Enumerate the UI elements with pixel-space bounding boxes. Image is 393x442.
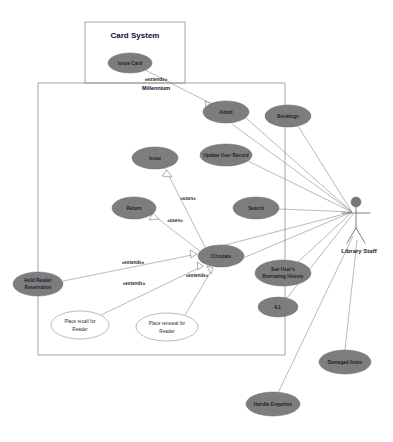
link-hold-circulate	[63, 254, 197, 281]
use-case-issue-card[interactable]: Issue Card	[108, 53, 152, 73]
stereotype-extends-renewal: «extends»	[186, 273, 209, 278]
use-case-hold-reader-reservation-shape[interactable]	[13, 272, 63, 296]
use-case-place-renewal-for-reader-line2: Reader	[159, 329, 175, 334]
use-case-search-label: Search	[248, 206, 264, 211]
use-case-see-users-borrowing-history-line1: See User's	[271, 267, 295, 272]
use-case-admit-label: Admit	[219, 110, 233, 115]
use-case-damaged-items[interactable]: Damaged Items	[319, 350, 371, 374]
arrowhead-hold	[190, 250, 197, 258]
actor-library-staff-label: Library Staff	[341, 248, 377, 254]
use-case-diagram: Card System Millennium Admit (extends) -…	[0, 0, 393, 442]
link-staff-bookings	[298, 126, 352, 212]
stereotype-uses-return: «uses»	[167, 218, 183, 223]
use-case-ill[interactable]: ILL	[258, 297, 298, 317]
boundary-card-system-title: Card System	[111, 31, 160, 40]
use-case-return[interactable]: Return	[112, 197, 156, 219]
use-case-see-users-borrowing-history-shape[interactable]	[255, 260, 311, 286]
link-staff-search	[279, 209, 352, 212]
use-case-damaged-items-label: Damaged Items	[328, 360, 363, 365]
use-case-hold-reader-reservation-line2: Reservation	[25, 285, 52, 290]
use-case-handle-enquiries-label: Handle Enquiries	[254, 402, 293, 407]
use-case-place-renewal-for-reader-line1: Place renewal for	[149, 321, 186, 326]
boundary-card-system: Card System	[85, 22, 185, 83]
stereotype-extends-recall: «extends»	[123, 281, 146, 286]
use-case-update-user-record[interactable]: Update User Record	[200, 144, 252, 166]
use-case-place-recall-for-reader[interactable]: Place recall for Reader	[51, 311, 109, 339]
use-case-place-renewal-for-reader-shape[interactable]	[136, 313, 198, 341]
arrowhead-recall	[197, 262, 203, 270]
use-case-bookings-label: Bookings	[277, 114, 299, 119]
stereotype-extends-issue-card: «extends»	[145, 77, 168, 82]
use-case-place-recall-for-reader-line1: Place recall for	[64, 319, 96, 324]
use-case-handle-enquiries[interactable]: Handle Enquiries	[246, 392, 300, 416]
actor-leg-right	[356, 228, 365, 243]
use-case-ill-label: ILL	[274, 305, 281, 310]
link-staff-damaged	[345, 240, 357, 350]
use-case-place-recall-for-reader-shape[interactable]	[51, 311, 109, 339]
actor-leg-left	[347, 228, 356, 243]
use-case-bookings[interactable]: Bookings	[265, 105, 311, 127]
use-case-circulate-label: Circulate	[211, 254, 232, 259]
use-case-update-user-record-label: Update User Record	[203, 153, 248, 158]
actor-head-icon	[351, 197, 361, 207]
use-case-hold-reader-reservation[interactable]: Hold Reader Reservation	[13, 272, 63, 296]
use-case-issue[interactable]: Issue	[132, 147, 178, 169]
use-cases: Issue Card Admit Bookings Update User Re…	[13, 53, 371, 416]
use-case-admit[interactable]: Admit	[203, 101, 249, 123]
use-case-see-users-borrowing-history[interactable]: See User's Borrowing History	[255, 260, 311, 286]
arrowhead-issue	[162, 170, 172, 177]
link-issue-circulate	[165, 168, 206, 249]
boundary-millennium-title: Millennium	[142, 85, 170, 91]
link-staff-fan-b	[206, 212, 352, 250]
use-case-return-label: Return	[126, 206, 141, 211]
use-case-circulate[interactable]: Circulate	[198, 245, 244, 267]
actor-library-staff[interactable]: Library Staff	[341, 197, 377, 254]
use-case-hold-reader-reservation-line1: Hold Reader	[24, 278, 52, 283]
use-case-place-renewal-for-reader[interactable]: Place renewal for Reader	[136, 313, 198, 341]
use-case-issue-card-label: Issue Card	[118, 61, 142, 66]
stereotype-extends-hold: «extends»	[122, 260, 145, 265]
use-case-issue-label: Issue	[149, 156, 161, 161]
use-case-see-users-borrowing-history-line2: Borrowing History	[263, 274, 304, 279]
use-case-place-recall-for-reader-line2: Reader	[72, 327, 88, 332]
stereotype-uses-issue: «uses»	[180, 196, 196, 201]
use-case-search[interactable]: Search	[233, 197, 279, 219]
